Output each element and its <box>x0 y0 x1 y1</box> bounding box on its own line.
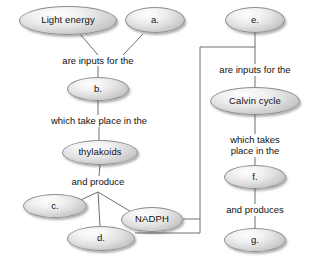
node-a[interactable]: a. <box>125 7 185 33</box>
node-g[interactable]: g. <box>224 228 286 252</box>
node-label: g. <box>251 235 259 245</box>
node-b[interactable]: b. <box>67 77 129 101</box>
node-nadph[interactable]: NADPH <box>121 207 183 232</box>
node-calvin-cycle[interactable]: Calvin cycle <box>210 87 300 115</box>
edge-label-text: and produces <box>226 204 284 215</box>
node-label: c. <box>51 201 59 211</box>
edge-e_produce_to_nadph <box>98 192 133 213</box>
node-label: Light energy <box>41 15 95 25</box>
edge-e_thyl_to_produce <box>99 165 100 176</box>
node-label: f. <box>252 172 257 182</box>
node-label: b. <box>94 84 102 94</box>
node-label: Calvin cycle <box>229 96 281 106</box>
edge-label-text: which take place in the <box>51 115 147 126</box>
node-label: a. <box>151 15 159 25</box>
edge-label-which-takes-place-in-the: which takesplace in the <box>230 134 280 157</box>
edge-label-and-produce: and produce <box>72 176 125 188</box>
edge-e_produce_to_d <box>98 192 100 226</box>
edge-label-text: and produce <box>72 176 125 187</box>
node-thylakoids[interactable]: thylakoids <box>62 140 138 165</box>
edge-label-text: are inputs for the <box>219 64 290 75</box>
edge-label-which-take-place-in-the: which take place in the <box>51 115 147 127</box>
concept-map-canvas: Light energy a. e. b. Calvin cycle thyla… <box>0 0 312 261</box>
node-c[interactable]: c. <box>23 194 87 218</box>
node-label: NADPH <box>135 214 169 224</box>
node-d[interactable]: d. <box>67 226 135 251</box>
edge-e_light_to_inputs <box>80 34 98 55</box>
node-label: e. <box>251 15 259 25</box>
edge-label-and-produces: and produces <box>226 204 284 216</box>
edge-label-are-inputs-for-the-right: are inputs for the <box>219 64 290 76</box>
edge-e_a_to_inputs <box>123 34 143 55</box>
node-label: d. <box>97 233 105 243</box>
node-label: thylakoids <box>78 147 121 157</box>
edge-label-text: which takesplace in the <box>230 134 280 157</box>
edge-label-text: are inputs for the <box>62 55 133 66</box>
edge-label-are-inputs-for-the-left: are inputs for the <box>62 55 133 67</box>
node-e[interactable]: e. <box>225 7 285 33</box>
node-f[interactable]: f. <box>224 165 286 189</box>
node-light-energy[interactable]: Light energy <box>19 6 117 35</box>
